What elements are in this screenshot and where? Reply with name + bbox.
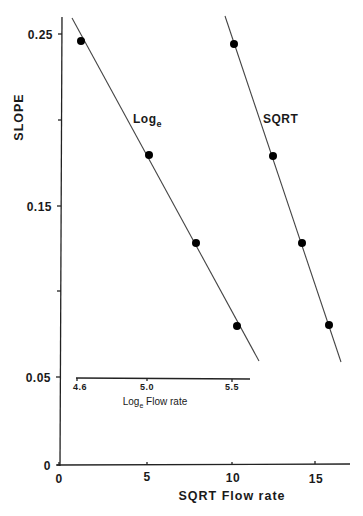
- x2-tick-labels: 4.6 5.0 5.5: [73, 382, 239, 392]
- y-axis: [60, 17, 62, 466]
- x-axis: [57, 464, 350, 465]
- x2-axis: [76, 378, 250, 379]
- data-point: [298, 239, 306, 247]
- data-point: [269, 152, 277, 160]
- x-tick-labels: 0 5 10 15: [55, 470, 323, 486]
- data-point: [233, 322, 241, 330]
- y-axis-title: SLOPE: [12, 93, 26, 140]
- chart-canvas: 0.25 0.15 0.05 0 SLOPE 0 5 10 15 SQRT Fl…: [0, 0, 363, 516]
- sqrt-series-label: SQRT: [263, 112, 299, 126]
- y-tick-label: 0.25: [28, 28, 53, 42]
- y-tick-label: 0.05: [26, 371, 51, 385]
- x-tick-label: 10: [226, 471, 240, 485]
- data-point: [145, 151, 153, 159]
- y-tick-label: 0.15: [27, 200, 52, 214]
- x2-axis-title: Loge Flow rate: [123, 396, 188, 409]
- data-point: [325, 321, 333, 329]
- x2-tick-label: 4.6: [73, 382, 87, 392]
- x2-tick-label: 5.0: [140, 382, 154, 392]
- loge-series-label: Loge: [133, 112, 162, 129]
- x-tick-label: 15: [309, 472, 323, 486]
- y-tick-label: 0: [44, 459, 51, 473]
- data-point: [77, 37, 85, 45]
- x2-tick-label: 5.5: [225, 382, 239, 392]
- data-point: [230, 40, 238, 48]
- y-tick-labels: 0.25 0.15 0.05 0: [26, 28, 53, 473]
- x-tick-label: 0: [55, 472, 62, 486]
- sqrt-fit-line: [225, 16, 341, 362]
- loge-fit-line: [72, 18, 259, 361]
- x-axis-title: SQRT Flow rate: [178, 489, 285, 503]
- x-tick-label: 5: [143, 470, 150, 484]
- data-point: [192, 239, 200, 247]
- loge-points: [77, 37, 241, 330]
